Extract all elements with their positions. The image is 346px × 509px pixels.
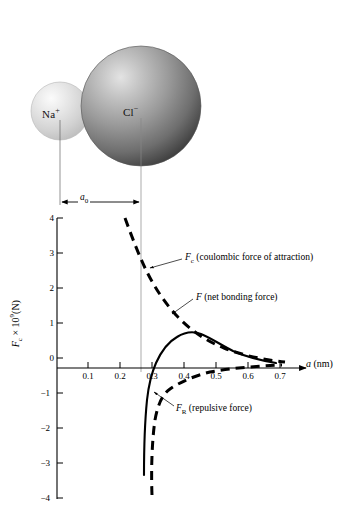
y-axis-unit: (N) bbox=[10, 300, 21, 314]
net-bonding-force-annotation: F (net bonding force) bbox=[196, 292, 278, 302]
y-tick-label: 2 bbox=[38, 283, 54, 293]
y-tick-label: 4 bbox=[38, 213, 54, 223]
a0-dimension-label: a0 bbox=[78, 192, 90, 205]
net-force-leader bbox=[172, 299, 193, 314]
y-axis-ticks bbox=[57, 218, 63, 498]
x-tick-label: 0.7 bbox=[267, 371, 293, 381]
coulombic-force-curve bbox=[125, 218, 285, 362]
x-axis-title: a (nm) bbox=[306, 358, 333, 369]
x-tick-label: 0.5 bbox=[203, 371, 229, 381]
y-tick-label: 0 bbox=[38, 353, 54, 363]
repulsive-leader bbox=[154, 392, 174, 406]
x-tick-label: 0.1 bbox=[75, 371, 101, 381]
y-tick-label: −3 bbox=[34, 458, 50, 468]
y-tick-label: −4 bbox=[34, 493, 50, 503]
net-bonding-force-annotation-text: (net bonding force) bbox=[202, 292, 278, 302]
repulsive-force-curve bbox=[152, 365, 282, 495]
x-tick-label: 0.6 bbox=[235, 371, 261, 381]
y-tick-label: 3 bbox=[38, 248, 54, 258]
sodium-ion-label: Na+ bbox=[42, 106, 60, 120]
y-tick-label: 1 bbox=[38, 318, 54, 328]
y-axis-title: Fc × 109(N) bbox=[8, 282, 23, 366]
coulombic-force-annotation: Fc (coulombic force of attraction) bbox=[185, 252, 313, 265]
x-tick-label: 0.3 bbox=[139, 371, 165, 381]
y-tick-label: −2 bbox=[34, 423, 50, 433]
repulsive-force-annotation-text: (repulsive force) bbox=[186, 403, 251, 413]
coulombic-force-annotation-text: (coulombic force of attraction) bbox=[194, 252, 313, 262]
coulombic-leader bbox=[150, 259, 182, 268]
figure-root: Na+ Cl− a0 Fc (coulombic force of attrac… bbox=[0, 0, 346, 509]
chloride-ion-label: Cl− bbox=[123, 104, 139, 118]
x-axis-unit: (nm) bbox=[314, 358, 333, 369]
y-tick-label: −1 bbox=[34, 388, 50, 398]
repulsive-force-annotation: FR (repulsive force) bbox=[176, 403, 252, 416]
x-tick-label: 0.4 bbox=[171, 371, 197, 381]
x-tick-label: 0.2 bbox=[107, 371, 133, 381]
